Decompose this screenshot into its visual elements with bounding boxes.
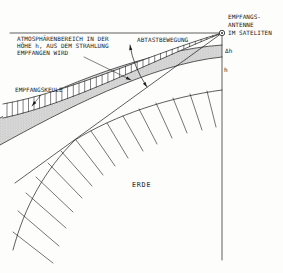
satellite-antenna-label-line1: EMPFANGS- xyxy=(228,13,261,20)
height-h-label: h xyxy=(224,66,228,73)
atmosphere-region-label-line2: HÖHE h, AUS DEM STRAHLUNG xyxy=(17,42,109,49)
satellite-antenna-label-line2: ANTENNE xyxy=(228,21,254,28)
atmosphere-region-label-line3: EMPFANGEN WIRD xyxy=(17,49,69,56)
limb-sounding-diagram: ATMOSPHÄRENBEREICH IN DER HÖHE h, AUS DE… xyxy=(0,0,283,273)
scan-motion-label: ABTASTBEWEGUNG xyxy=(137,36,189,43)
earth-label: ERDE xyxy=(132,181,151,189)
scan-motion-arrowhead-top xyxy=(129,45,132,50)
delta-h-label: Δh xyxy=(225,47,233,54)
atmosphere-region-label-line1: ATMOSPHÄRENBEREICH IN DER xyxy=(17,35,109,42)
diagram-canvas: ATMOSPHÄRENBEREICH IN DER HÖHE h, AUS DE… xyxy=(0,0,283,273)
satellite-antenna-label-line3: IM SATELITEN xyxy=(228,29,272,36)
satellite-antenna-icon-dot xyxy=(221,32,223,34)
scan-motion-arrowhead-bottom xyxy=(143,82,147,87)
beam-label: EMPFANGSKEULE xyxy=(15,86,63,93)
